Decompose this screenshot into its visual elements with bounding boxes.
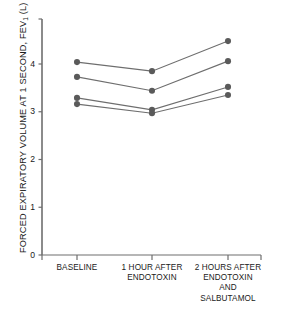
data-point-marker [225, 38, 231, 44]
data-point-marker [74, 101, 80, 107]
data-point-marker [149, 88, 155, 94]
y-axis-tick-label: 2 [16, 154, 35, 164]
y-axis-tick-label: 4 [16, 59, 35, 69]
data-point-marker [74, 59, 80, 65]
data-point-marker [74, 95, 80, 101]
data-point-marker [149, 110, 155, 116]
y-axis-tick-label: 0 [16, 250, 35, 260]
series-line [77, 61, 228, 91]
data-point-marker [149, 68, 155, 74]
data-point-marker [225, 92, 231, 98]
data-point-marker [225, 84, 231, 90]
series-line [77, 41, 228, 71]
x-axis-category-label: 1 HOUR AFTERENDOTOXIN [110, 263, 194, 283]
x-axis-category-label-line: 1 HOUR AFTER [110, 263, 194, 273]
data-point-marker [74, 74, 80, 80]
x-axis-category-label: BASELINE [35, 263, 119, 273]
x-axis-category-label-line: AND [186, 283, 270, 293]
x-axis-category-label-line: 2 HOURS AFTER [186, 263, 270, 273]
x-axis-category-label: 2 HOURS AFTERENDOTOXINANDSALBUTAMOL [186, 263, 270, 304]
data-point-marker [225, 58, 231, 64]
x-axis-category-label-line: ENDOTOXIN [110, 273, 194, 283]
y-axis-tick-label: 3 [16, 106, 35, 116]
x-axis-category-label-line: BASELINE [35, 263, 119, 273]
chart-figure: FORCED EXPIRATORY VOLUME AT 1 SECOND, FE… [0, 0, 282, 311]
x-axis-category-label-line: ENDOTOXIN [186, 273, 270, 283]
x-axis-category-label-line: SALBUTAMOL [186, 294, 270, 304]
y-axis-tick-label: 1 [16, 202, 35, 212]
